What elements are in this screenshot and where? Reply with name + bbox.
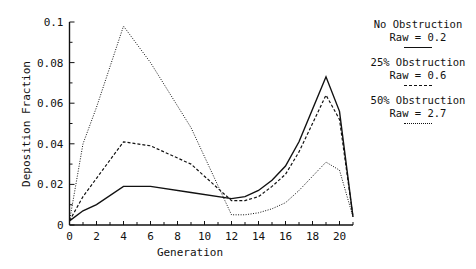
series-solid-line [70, 77, 354, 221]
legend-item-25-obstruction: 25% Obstruction Raw = 0.6 [360, 56, 476, 86]
y-tick-label: 0 [57, 219, 64, 232]
x-tick-label: 16 [279, 230, 292, 243]
x-tick-label: 8 [174, 230, 181, 243]
legend-subtitle: Raw = 0.6 [360, 69, 476, 82]
x-tick-label: 4 [120, 230, 127, 243]
x-tick-label: 12 [225, 230, 238, 243]
x-tick-label: 18 [306, 230, 319, 243]
axes: 0246810121416182000.020.040.060.080.1 [37, 16, 353, 243]
x-tick-label: 2 [93, 230, 100, 243]
legend: No Obstruction Raw = 0.2 25% Obstruction… [360, 18, 476, 132]
series-dotted-line [70, 26, 354, 221]
y-tick-label: 0.04 [37, 138, 64, 151]
y-axis-label: Deposition Fraction [20, 61, 33, 187]
dotted-line-swatch [404, 123, 432, 124]
legend-item-50-obstruction: 50% Obstruction Raw = 2.7 [360, 94, 476, 124]
solid-line-swatch [404, 47, 432, 48]
x-tick-label: 0 [66, 230, 73, 243]
y-tick-label: 0.08 [37, 57, 64, 70]
dashed-line-swatch [404, 85, 432, 86]
x-tick-label: 20 [333, 230, 346, 243]
x-tick-label: 14 [252, 230, 266, 243]
legend-subtitle: Raw = 2.7 [360, 107, 476, 120]
y-tick-label: 0.02 [37, 178, 64, 191]
legend-title: 25% Obstruction [360, 56, 476, 69]
y-tick-label: 0.06 [37, 97, 64, 110]
data-series [70, 26, 354, 221]
x-tick-label: 6 [147, 230, 154, 243]
legend-subtitle: Raw = 0.2 [360, 31, 476, 44]
legend-title: No Obstruction [360, 18, 476, 31]
legend-item-no-obstruction: No Obstruction Raw = 0.2 [360, 18, 476, 48]
x-tick-label: 10 [198, 230, 211, 243]
y-tick-label: 0.1 [44, 16, 64, 29]
x-axis-label: Generation [157, 246, 223, 259]
legend-title: 50% Obstruction [360, 94, 476, 107]
